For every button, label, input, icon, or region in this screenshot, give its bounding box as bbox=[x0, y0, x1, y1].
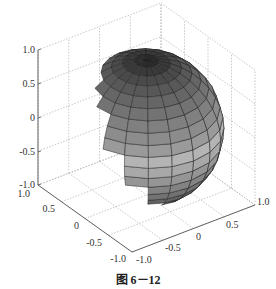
x-tick-label: 0.5 bbox=[226, 219, 239, 230]
surface-patch bbox=[126, 131, 149, 145]
z-tick-label: 1.0 bbox=[23, 44, 36, 55]
axis-line bbox=[38, 185, 132, 252]
x-tick-label: -1.0 bbox=[136, 254, 152, 265]
y-tick-label: 0 bbox=[74, 220, 79, 231]
figure-caption: 图 6－12 bbox=[0, 270, 276, 288]
y-tick-label: -1.0 bbox=[110, 253, 126, 264]
surface-patch bbox=[148, 107, 168, 121]
surface-patch bbox=[129, 107, 148, 121]
axis-line bbox=[38, 49, 41, 50]
z-tick-label: -0.5 bbox=[19, 146, 35, 157]
surface-patch bbox=[148, 120, 169, 134]
plot-3d-axes: 1.00.50-0.5-1.01.00.50-0.5-1.0-1.0-0.500… bbox=[0, 0, 276, 289]
y-tick-label: -0.5 bbox=[86, 237, 102, 248]
surface-patch bbox=[148, 132, 171, 146]
surface-patch bbox=[148, 156, 172, 169]
z-tick-label: 0.5 bbox=[23, 78, 36, 89]
x-tick-label: 0 bbox=[196, 231, 201, 242]
sphere-surface-figure: 1.00.50-0.5-1.01.00.50-0.5-1.0-1.0-0.500… bbox=[0, 0, 276, 289]
surface-patch bbox=[148, 144, 172, 158]
surface-patch bbox=[148, 167, 172, 179]
z-tick-label: 0 bbox=[30, 112, 35, 123]
y-tick-label: 0.5 bbox=[43, 203, 56, 214]
y-tick-label: 1.0 bbox=[18, 188, 31, 199]
x-tick-label: 1.0 bbox=[257, 196, 270, 207]
surface-patch bbox=[127, 119, 148, 133]
x-tick-label: -0.5 bbox=[165, 242, 181, 253]
sphere-surface bbox=[95, 49, 224, 205]
surface-patch bbox=[131, 96, 148, 109]
